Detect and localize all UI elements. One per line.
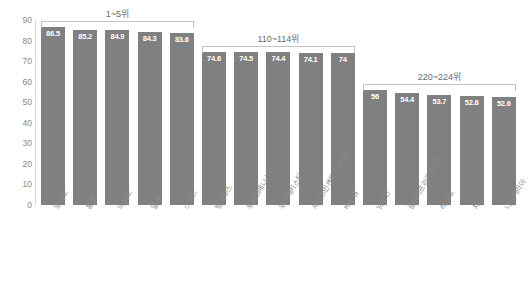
group-bracket-cap-right (354, 46, 355, 53)
x-axis-tick-label: 레소토 (427, 207, 451, 217)
x-axis-tick-label: 세인트빈센트그레나딘 (299, 207, 323, 217)
bar-value-label: 74.1 (299, 56, 323, 64)
y-axis-tick-label: 90 (6, 16, 32, 25)
x-axis-tick-label: 마카오 (105, 207, 129, 217)
bar[interactable]: 52.8 (460, 96, 484, 205)
bar[interactable]: 85.2 (73, 30, 97, 205)
x-axis-tick-label: 일본 (138, 207, 162, 217)
x-axis-tick-label: 투르크메니스탄 (234, 207, 258, 217)
x-axis-tick-label: 우즈베키스탄 (266, 207, 290, 217)
group-bracket: 1~5위 (41, 10, 194, 24)
bar-value-label: 74.6 (202, 55, 226, 63)
group-bracket-label-text: 110~114위 (252, 35, 304, 44)
bar-value-label: 74.4 (266, 55, 290, 63)
group-bracket-line (41, 21, 194, 22)
bar-value-label: 56 (363, 93, 387, 101)
x-axis-tick-label: 벨라루스 (202, 207, 226, 217)
bar-value-label: 83.6 (170, 36, 194, 44)
x-axis-tick-label: 남수단 (363, 207, 387, 217)
x-axis-tick-label: 나이지리아 (492, 207, 516, 217)
x-axis-tick-label: 모나코 (41, 207, 65, 217)
bar[interactable]: 84.9 (105, 30, 129, 205)
bar-value-label: 53.7 (427, 98, 451, 106)
group-bracket-cap-left (202, 46, 203, 53)
bar-chart: 9080706050403020100 86.585.284.984.383.6… (0, 0, 530, 288)
group-bracket-label: 1~5위 (41, 10, 194, 19)
x-axis-tick-label: 중앙아프리카공화국 (395, 207, 419, 217)
bar-value-label: 52.6 (492, 100, 516, 108)
group-bracket-label: 110~114위 (202, 35, 355, 44)
bar-value-label: 84.3 (138, 35, 162, 43)
group-bracket-cap-left (41, 21, 42, 28)
bar[interactable]: 74.1 (299, 53, 323, 205)
group-bracket: 110~114위 (202, 35, 355, 49)
bar-value-label: 84.9 (105, 33, 129, 41)
x-axis-tick-labels: 모나코홍콩마카오일본스위스벨라루스투르크메니스탄우즈베키스탄세인트빈센트그레나딘… (37, 207, 523, 288)
plot-area: 86.585.284.984.383.674.674.574.474.17456… (37, 20, 523, 205)
y-axis-tick-label: 60 (6, 78, 32, 87)
group-bracket: 220~224위 (363, 73, 516, 87)
bar[interactable]: 56 (363, 90, 387, 205)
bar[interactable]: 74.6 (202, 52, 226, 205)
group-bracket-cap-right (193, 21, 194, 28)
y-axis-tick-label: 80 (6, 37, 32, 46)
group-bracket-label-text: 220~224위 (413, 73, 466, 82)
group-bracket-line (202, 46, 355, 47)
group-bracket-cap-left (363, 84, 364, 91)
y-axis-tick-label: 70 (6, 57, 32, 66)
x-axis-tick-label: 스위스 (170, 207, 194, 217)
y-axis-tick-label: 0 (6, 201, 32, 210)
group-bracket-label-text: 1~5위 (101, 10, 134, 19)
y-axis-tick-label: 40 (6, 119, 32, 128)
y-axis-line (35, 20, 36, 205)
bar[interactable]: 84.3 (138, 32, 162, 205)
group-bracket-line (363, 84, 516, 85)
bar-value-label: 54.4 (395, 96, 419, 104)
bar-value-label: 52.8 (460, 99, 484, 107)
bar-value-label: 74 (331, 56, 355, 64)
bar-value-label: 86.5 (41, 30, 65, 38)
x-axis-tick-label: 차드 (460, 207, 484, 217)
y-axis-tick-label: 20 (6, 160, 32, 169)
group-bracket-cap-right (515, 84, 516, 91)
y-axis-tick-label: 50 (6, 98, 32, 107)
bar[interactable]: 86.5 (41, 27, 65, 205)
y-axis-tick-label: 10 (6, 180, 32, 189)
y-axis-tick-labels: 9080706050403020100 (0, 0, 32, 288)
x-axis-tick-label: 베트남 (331, 207, 355, 217)
bar[interactable]: 74.5 (234, 52, 258, 205)
group-bracket-label: 220~224위 (363, 73, 516, 82)
bar[interactable]: 83.6 (170, 33, 194, 205)
bar-value-label: 85.2 (73, 33, 97, 41)
bar-value-label: 74.5 (234, 55, 258, 63)
y-axis-tick-label: 30 (6, 139, 32, 148)
x-axis-tick-label: 홍콩 (73, 207, 97, 217)
bar[interactable]: 74.4 (266, 52, 290, 205)
